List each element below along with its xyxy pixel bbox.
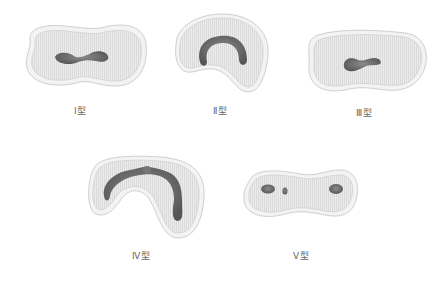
type-i-label: Ⅰ型	[74, 104, 87, 117]
type-v-shape	[244, 170, 358, 216]
type-iii-label: Ⅲ型	[356, 106, 372, 119]
types-diagram	[0, 0, 444, 284]
type-i-shape	[26, 25, 146, 86]
type-ii-label: Ⅱ型	[213, 104, 227, 117]
type-iii-shape	[309, 30, 427, 91]
type-ii-shape	[176, 14, 269, 92]
type-iv-label: Ⅳ型	[132, 249, 150, 262]
type-v-label: Ⅴ型	[293, 249, 309, 262]
type-iv-shape	[89, 156, 204, 238]
